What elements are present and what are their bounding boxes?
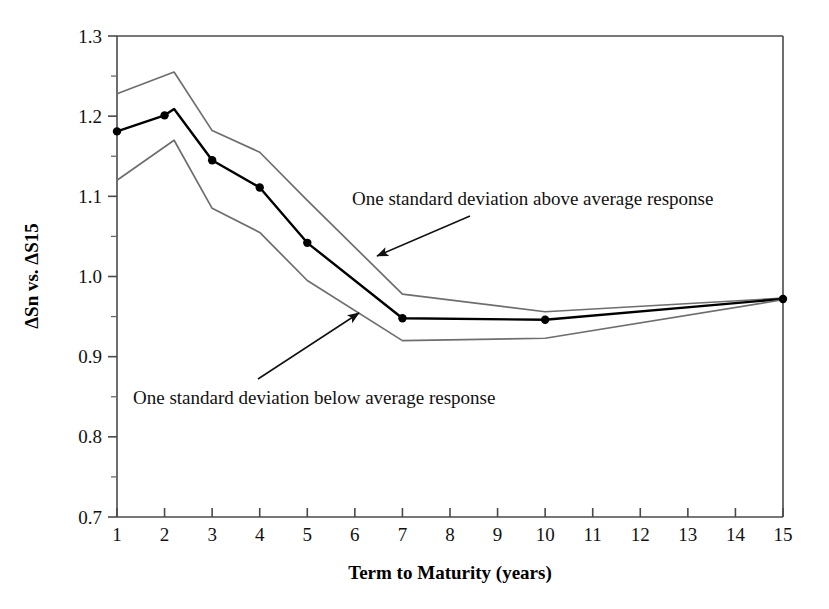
x-tick-label: 1 [112, 524, 122, 545]
data-point-marker [398, 314, 406, 322]
data-point-marker [208, 156, 216, 164]
x-tick-label: 12 [631, 524, 650, 545]
data-point-marker [113, 127, 121, 135]
x-axis-title: Term to Maturity (years) [348, 562, 551, 584]
x-tick-label: 8 [445, 524, 455, 545]
x-tick-label: 10 [536, 524, 555, 545]
y-tick-label: 1.0 [78, 266, 102, 287]
x-tick-label: 4 [255, 524, 265, 545]
y-tick-label: 1.1 [78, 186, 102, 207]
x-tick-label: 3 [207, 524, 217, 545]
data-point-marker [160, 111, 168, 119]
upper-band-annotation-text: One standard deviation above average res… [352, 188, 713, 209]
chart-page: 0.70.80.91.01.11.21.3 123456789101112131… [0, 0, 829, 609]
line-chart: 0.70.80.91.01.11.21.3 123456789101112131… [0, 0, 829, 609]
x-tick-label: 9 [493, 524, 503, 545]
data-point-marker [303, 239, 311, 247]
x-axis-tick-labels: 123456789101112131415 [112, 524, 792, 545]
y-tick-label: 1.2 [78, 106, 102, 127]
lower-band-annotation-text: One standard deviation below average res… [133, 387, 495, 408]
data-point-marker [256, 183, 264, 191]
x-tick-label: 6 [350, 524, 360, 545]
data-point-marker [779, 295, 787, 303]
data-point-marker [541, 316, 549, 324]
y-tick-label: 0.7 [78, 507, 102, 528]
y-tick-label: 1.3 [78, 26, 102, 47]
y-tick-label: 0.9 [78, 346, 102, 367]
x-tick-label: 5 [303, 524, 313, 545]
y-tick-label: 0.8 [78, 426, 102, 447]
x-tick-label: 15 [774, 524, 793, 545]
y-axis-title: ΔSn vs. ΔS15 [21, 223, 42, 329]
x-tick-label: 2 [160, 524, 170, 545]
x-tick-label: 11 [584, 524, 602, 545]
x-tick-label: 14 [726, 524, 746, 545]
x-tick-label: 7 [398, 524, 408, 545]
x-tick-label: 13 [678, 524, 697, 545]
